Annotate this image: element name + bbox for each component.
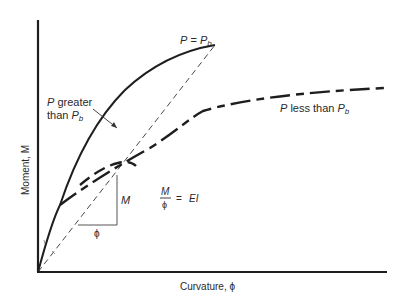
secant-line — [38, 45, 215, 272]
y-axis-label: Moment, M — [20, 145, 31, 195]
label-p-less-than-pb: P less than Pb — [280, 102, 350, 116]
angle-mark — [44, 240, 45, 244]
x-axis-label: Curvature, ϕ — [180, 281, 235, 292]
label-p-equals-pb: P = Pb — [180, 34, 212, 48]
run-label: ϕ — [94, 228, 100, 239]
moment-curvature-diagram: P = Pb P greater than Pb P less than Pb … — [0, 0, 407, 300]
equation-rhs: EI — [189, 193, 199, 204]
label-p-greater-than-pb-line2: than Pb — [47, 109, 84, 123]
equation-equals: = — [176, 193, 182, 204]
arrow-head-icon — [111, 122, 117, 128]
label-p-greater-than-pb-line1: P greater — [47, 96, 93, 108]
equation-denominator: ϕ — [162, 200, 167, 210]
rise-label: M — [121, 194, 131, 206]
equation-numerator: M — [161, 186, 170, 197]
